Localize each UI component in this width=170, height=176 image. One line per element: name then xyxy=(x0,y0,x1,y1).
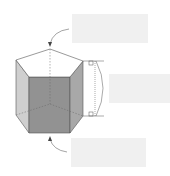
top-face-label-box xyxy=(72,14,148,43)
bottom-arrow xyxy=(50,139,67,152)
top-face xyxy=(16,49,83,77)
height-indicator xyxy=(83,61,104,116)
top-arrowhead-icon xyxy=(48,42,52,47)
bottom-face-label-box xyxy=(71,138,146,167)
height-label-box xyxy=(109,74,170,103)
bottom-arrowhead-icon xyxy=(48,136,52,141)
front-face xyxy=(29,77,70,133)
top-arrow xyxy=(50,29,69,44)
